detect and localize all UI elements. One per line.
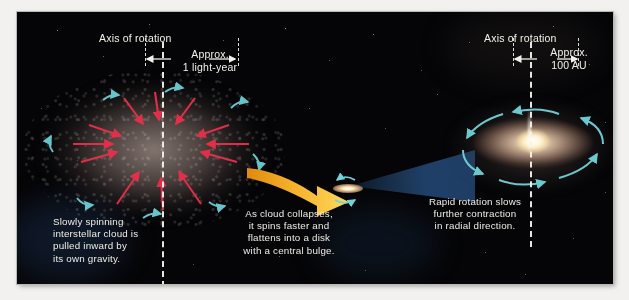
- cloud-rotation-arrows: [49, 88, 259, 219]
- caption-right-line2: further contraction: [434, 208, 517, 219]
- star: [485, 252, 486, 253]
- caption-right-line1: Rapid rotation slows: [429, 196, 521, 207]
- caption-middle: As cloud collapses, it spins faster and …: [229, 208, 349, 257]
- gravity-arrows: [73, 92, 249, 210]
- diagram-plate: Axis of rotation Approx. 1 light-year Sl…: [17, 12, 613, 284]
- caption-right: Rapid rotation slows further contraction…: [415, 196, 535, 233]
- caption-left-line2: interstellar cloud is: [53, 228, 138, 239]
- star: [385, 128, 386, 129]
- measure-label-right: Approx. 100 AU: [541, 46, 597, 71]
- measure-right-line2: 100 AU: [551, 59, 587, 71]
- measure-left-line2: 1 light-year: [183, 61, 237, 73]
- caption-left-line4: its own gravity.: [53, 253, 120, 264]
- star: [525, 274, 526, 275]
- measure-left-line1: Approx.: [191, 48, 229, 60]
- axis-label-right: Axis of rotation: [484, 32, 557, 44]
- caption-mid-line4: with a central bulge.: [243, 245, 334, 256]
- disk-rotation-arrows: [441, 98, 613, 202]
- caption-right-line3: in radial direction.: [435, 220, 516, 231]
- caption-left: Slowly spinning interstellar cloud is pu…: [53, 216, 173, 265]
- caption-mid-line3: flattens into a disk: [248, 232, 330, 243]
- star: [365, 270, 366, 271]
- star: [373, 34, 374, 35]
- figure-root: Axis of rotation Approx. 1 light-year Sl…: [0, 0, 629, 300]
- caption-left-line1: Slowly spinning: [53, 216, 124, 227]
- caption-mid-line2: it spins faster and: [249, 220, 330, 231]
- caption-mid-line1: As cloud collapses,: [245, 208, 333, 219]
- axis-label-left: Axis of rotation: [99, 32, 172, 44]
- star: [421, 70, 422, 71]
- star: [437, 94, 438, 95]
- measure-right-line1: Approx.: [550, 46, 588, 58]
- measure-label-left: Approx. 1 light-year: [179, 48, 241, 73]
- caption-left-line3: pulled inward by: [53, 240, 127, 251]
- star: [573, 238, 574, 239]
